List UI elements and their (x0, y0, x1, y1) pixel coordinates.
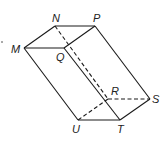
edge-MN (24, 26, 55, 48)
vertex-label-M: M (11, 43, 21, 55)
edge-PS (95, 26, 150, 99)
edge-QT (64, 48, 120, 120)
vertex-label-T: T (117, 123, 125, 135)
vertex-label-S: S (152, 93, 160, 105)
vertex-label-R: R (111, 85, 119, 97)
vertex-label-U: U (72, 123, 80, 135)
vertex-label-Q: Q (56, 51, 65, 63)
vertex-label-P: P (93, 12, 101, 24)
edge-TS (120, 99, 150, 120)
vertex-label-N: N (52, 12, 60, 24)
edge-MU (24, 48, 78, 120)
prism-diagram: N P M Q R S U T (0, 0, 165, 141)
hidden-edge-RU (78, 99, 108, 120)
